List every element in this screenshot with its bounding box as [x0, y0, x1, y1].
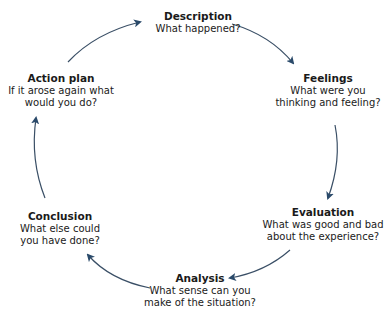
node-question: What sense can you make of the situation…: [130, 285, 270, 310]
node-question: What happened?: [118, 23, 278, 36]
node-title: Feelings: [268, 72, 388, 85]
node-title: Evaluation: [258, 206, 388, 219]
node-question: What was good and bad about the experien…: [258, 219, 388, 244]
node-title: Analysis: [130, 272, 270, 285]
node-title: Action plan: [0, 72, 122, 85]
node-analysis: Analysis What sense can you make of the …: [130, 272, 270, 310]
node-question: If it arose again what would you do?: [0, 85, 122, 110]
node-title: Conclusion: [0, 210, 120, 223]
node-action-plan: Action plan If it arose again what would…: [0, 72, 122, 110]
arrow-feelings-to-evaluation: [328, 125, 337, 198]
node-description: Description What happened?: [118, 10, 278, 35]
arrow-conclusion-to-action: [34, 118, 45, 198]
node-feelings: Feelings What were you thinking and feel…: [268, 72, 388, 110]
node-title: Description: [118, 10, 278, 23]
node-conclusion: Conclusion What else could you have done…: [0, 210, 120, 248]
node-question: What were you thinking and feeling?: [268, 85, 388, 110]
node-evaluation: Evaluation What was good and bad about t…: [258, 206, 388, 244]
node-question: What else could you have done?: [0, 223, 120, 248]
